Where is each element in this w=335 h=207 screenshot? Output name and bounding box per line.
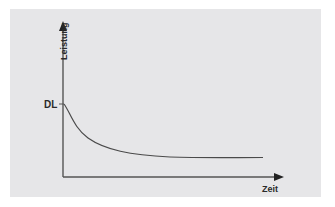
x-axis-arrow-icon (274, 173, 284, 181)
x-axis-label: Zeit (262, 184, 278, 194)
y-axis-label: Leistung (59, 23, 69, 61)
performance-curve (64, 104, 263, 158)
dl-label: DL (44, 99, 57, 110)
